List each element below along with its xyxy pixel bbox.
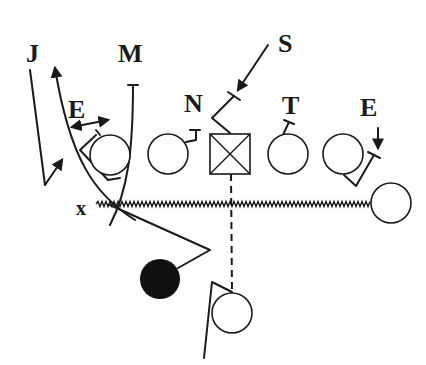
s-route (238, 45, 268, 90)
label-x: x (76, 197, 86, 219)
player-flanker (371, 183, 411, 223)
play-diagram: J M S N T E E x (0, 0, 426, 365)
ball-carrier (140, 259, 180, 299)
s-block-line (212, 96, 234, 133)
player-back (212, 293, 252, 333)
motion-zigzag (96, 202, 370, 207)
label-m: M (118, 39, 143, 68)
label-j: J (26, 39, 39, 68)
snap-path-dashed (231, 174, 232, 292)
player-right-tackle (323, 134, 363, 174)
player-right-guard (268, 134, 308, 174)
label-t: T (282, 91, 299, 120)
n-block (186, 130, 200, 142)
t-block (283, 120, 294, 135)
player-center (210, 134, 250, 174)
label-n: N (184, 89, 203, 118)
label-s: S (278, 29, 292, 58)
j-route (30, 70, 45, 185)
label-e-left: E (68, 95, 85, 124)
j-route-arrow (45, 160, 62, 185)
player-left-guard (148, 134, 188, 174)
player-left-tackle (90, 135, 130, 175)
label-e-right: E (360, 93, 377, 122)
